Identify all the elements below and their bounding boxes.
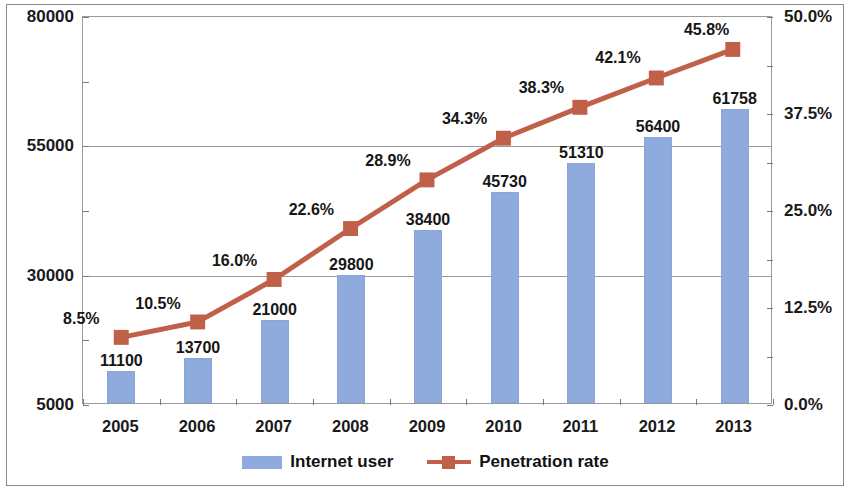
y2-axis-tickmark: [767, 114, 773, 115]
bar-value-label: 61758: [690, 91, 780, 107]
bar[interactable]: [107, 371, 135, 403]
line-marker[interactable]: [267, 272, 282, 287]
x-axis-tickmark: [236, 399, 237, 405]
x-axis-tickmark: [83, 399, 84, 405]
bar[interactable]: [721, 109, 749, 403]
legend-label-internet-user: Internet user: [290, 452, 393, 472]
x-axis-tickmark: [466, 399, 467, 405]
x-axis-tick-label: 2012: [617, 418, 697, 435]
x-axis-tick-label: 2013: [694, 418, 774, 435]
right-axis-tick-label: 12.5%: [784, 299, 850, 316]
y-axis-tickmark: [83, 146, 89, 147]
x-axis-tickmark: [160, 399, 161, 405]
line-marker[interactable]: [190, 314, 205, 329]
bar-value-label: 38400: [383, 212, 473, 228]
right-axis-tick-label: 37.5%: [784, 105, 850, 122]
line-marker[interactable]: [572, 100, 587, 115]
x-axis-tick-label: 2011: [540, 418, 620, 435]
bar[interactable]: [567, 163, 595, 403]
bar[interactable]: [644, 137, 672, 403]
y-axis-tickmark: [83, 17, 89, 18]
line-value-label: 34.3%: [435, 111, 495, 127]
line-value-label: 38.3%: [511, 80, 571, 96]
bar-value-label: 13700: [153, 340, 243, 356]
chart-container: 5000300005500080000 0.0%12.5%25.0%37.5%5…: [0, 0, 851, 492]
legend-bar-swatch-icon: [242, 456, 282, 469]
y-axis-tickmark: [83, 82, 89, 83]
y2-axis-tickmark: [767, 260, 773, 261]
left-axis-tick-label: 30000: [8, 267, 74, 284]
line-marker[interactable]: [343, 221, 358, 236]
x-axis-tick-label: 2008: [310, 418, 390, 435]
plot-area: 1110013700210002980038400457305131056400…: [82, 16, 772, 404]
y-axis-tickmark: [83, 340, 89, 341]
line-marker[interactable]: [649, 71, 664, 86]
y-axis-tickmark: [83, 276, 89, 277]
line-value-label: 22.6%: [281, 202, 341, 218]
x-axis-tick-label: 2007: [234, 418, 314, 435]
chart-legend: Internet user Penetration rate: [0, 452, 851, 472]
line-marker[interactable]: [725, 42, 740, 57]
left-axis-tick-label: 5000: [8, 396, 74, 413]
line-value-label: 42.1%: [588, 50, 648, 66]
bar-value-label: 29800: [306, 257, 396, 273]
line-value-label: 45.8%: [677, 22, 737, 38]
left-axis-tick-label: 55000: [8, 137, 74, 154]
legend-line-swatch-icon: [427, 455, 471, 469]
line-value-label: 28.9%: [358, 153, 418, 169]
legend-item-internet-user[interactable]: Internet user: [242, 452, 393, 472]
x-axis-tick-label: 2006: [157, 418, 237, 435]
x-axis-tickmark: [390, 399, 391, 405]
y2-axis-tickmark: [767, 405, 773, 406]
right-axis-tick-label: 25.0%: [784, 202, 850, 219]
y2-axis-tickmark: [767, 163, 773, 164]
x-axis-tickmark: [620, 399, 621, 405]
bar-value-label: 51310: [536, 145, 626, 161]
bar[interactable]: [414, 230, 442, 403]
y-axis-tickmark: [83, 405, 89, 406]
bar[interactable]: [337, 275, 365, 403]
y2-axis-tickmark: [767, 357, 773, 358]
x-axis-tickmark: [773, 399, 774, 405]
bar-value-label: 21000: [230, 302, 320, 318]
x-axis-tick-label: 2005: [80, 418, 160, 435]
y2-axis-tickmark: [767, 17, 773, 18]
bar-value-label: 56400: [613, 119, 703, 135]
right-axis-tick-label: 0.0%: [784, 396, 850, 413]
line-marker[interactable]: [420, 172, 435, 187]
y-axis-tickmark: [83, 211, 89, 212]
y2-axis-tickmark: [767, 308, 773, 309]
line-value-label: 8.5%: [51, 311, 111, 327]
line-value-label: 10.5%: [128, 296, 188, 312]
y2-axis-tickmark: [767, 66, 773, 67]
right-axis-tick-label: 50.0%: [784, 8, 850, 25]
line-value-label: 16.0%: [205, 253, 265, 269]
x-axis-tick-label: 2009: [387, 418, 467, 435]
bar-value-label: 45730: [460, 174, 550, 190]
x-axis-tickmark: [696, 399, 697, 405]
legend-label-penetration-rate: Penetration rate: [479, 452, 608, 472]
x-axis-tick-label: 2010: [464, 418, 544, 435]
legend-item-penetration-rate[interactable]: Penetration rate: [427, 452, 608, 472]
y2-axis-tickmark: [767, 211, 773, 212]
left-axis-tick-label: 80000: [8, 8, 74, 25]
bar[interactable]: [491, 192, 519, 403]
x-axis-tickmark: [313, 399, 314, 405]
x-axis-tickmark: [543, 399, 544, 405]
line-marker[interactable]: [496, 131, 511, 146]
bar[interactable]: [184, 358, 212, 403]
bar[interactable]: [261, 320, 289, 403]
line-marker[interactable]: [114, 330, 129, 345]
